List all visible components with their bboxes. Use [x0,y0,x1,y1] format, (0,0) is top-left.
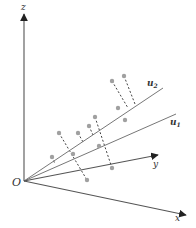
origin-label: O [12,176,21,189]
data-point [76,131,80,135]
data-point [50,155,54,159]
y-axis-label: y [152,159,159,169]
data-point [123,118,127,122]
x-axis [24,181,186,215]
u2-label: u2 [147,78,158,89]
projection-dashes [52,76,135,180]
coordinate-axes [24,14,186,215]
data-point [57,131,61,135]
x-axis-label: x [175,213,180,223]
data-point [71,152,75,156]
data-point [97,144,101,148]
u1-label: u1 [170,117,181,128]
data-point [110,166,114,170]
labels: O z x y u2 u1 [12,2,181,223]
data-point [110,79,114,83]
projection-dash [124,76,135,104]
z-axis-label: z [20,2,26,12]
data-point [122,74,126,78]
data-point [85,178,89,182]
data-point [116,106,120,110]
diagram-canvas: O z x y u2 u1 [0,0,196,228]
data-point [87,124,91,128]
data-points [50,74,127,182]
projection-dash [95,117,112,168]
data-point [93,115,97,119]
projection-dash [112,81,128,108]
